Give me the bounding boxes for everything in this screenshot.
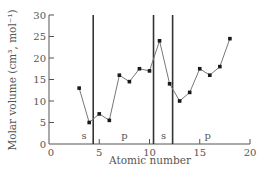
axes: 05101520253005101520 bbox=[33, 10, 256, 159]
data-point-marker bbox=[228, 37, 232, 41]
y-tick-label: 10 bbox=[33, 96, 46, 107]
x-tick-label: 0 bbox=[48, 147, 54, 158]
y-tick-label: 25 bbox=[33, 31, 46, 42]
data-point-marker bbox=[118, 73, 122, 77]
data-point-marker bbox=[97, 112, 101, 116]
y-tick-label: 5 bbox=[40, 117, 46, 128]
data-point-marker bbox=[138, 67, 142, 71]
data-point-marker bbox=[87, 121, 91, 125]
series-line bbox=[79, 39, 230, 123]
y-tick-label: 0 bbox=[40, 139, 46, 150]
data-point-marker bbox=[108, 119, 112, 123]
x-tick-label: 15 bbox=[193, 147, 206, 158]
block-label-s: s bbox=[161, 130, 166, 141]
data-point-marker bbox=[218, 65, 222, 69]
y-tick-label: 20 bbox=[33, 53, 46, 64]
data-point-marker bbox=[158, 39, 162, 43]
data-series bbox=[77, 37, 231, 124]
region-labels: spsp bbox=[82, 130, 211, 141]
block-label-p: p bbox=[121, 130, 127, 141]
y-tick-label: 30 bbox=[33, 10, 46, 21]
data-point-marker bbox=[198, 67, 202, 71]
block-label-p: p bbox=[205, 130, 211, 141]
molar-volume-chart: 05101520253005101520 spsp Atomic number … bbox=[0, 0, 267, 170]
x-axis-title: Atomic number bbox=[108, 154, 192, 166]
block-label-s: s bbox=[82, 130, 87, 141]
data-point-marker bbox=[128, 80, 132, 84]
x-tick-label: 20 bbox=[244, 147, 257, 158]
x-tick-label: 5 bbox=[96, 147, 102, 158]
data-point-marker bbox=[208, 73, 212, 77]
block-dividers bbox=[93, 15, 172, 144]
y-axis-title: Molar volume (cm³, mol⁻¹) bbox=[6, 9, 18, 150]
data-point-marker bbox=[168, 82, 172, 86]
y-tick-label: 15 bbox=[33, 74, 46, 85]
data-point-marker bbox=[77, 86, 81, 90]
data-point-marker bbox=[188, 91, 192, 95]
data-point-marker bbox=[148, 69, 152, 73]
data-point-marker bbox=[178, 99, 182, 103]
